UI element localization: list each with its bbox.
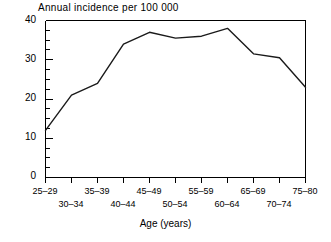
xtick-label-75-80: 75–80 xyxy=(292,186,317,196)
xtick-label-25-29: 25–29 xyxy=(32,186,57,196)
y-major-ticks xyxy=(46,21,53,178)
xtick-label-65-69: 65–69 xyxy=(240,186,265,196)
xtick-label-40-44: 40–44 xyxy=(110,199,135,209)
ytick-label-20: 20 xyxy=(14,92,36,103)
chart-figure: Annual incidence per 100 000 xyxy=(0,0,331,242)
ytick-label-40: 40 xyxy=(14,14,36,25)
xtick-label-70-74: 70–74 xyxy=(266,199,291,209)
xtick-label-45-49: 45–49 xyxy=(136,186,161,196)
ytick-label-0: 0 xyxy=(14,170,36,181)
ytick-label-30: 30 xyxy=(14,53,36,64)
axis-frame xyxy=(46,21,306,178)
xtick-label-55-59: 55–59 xyxy=(188,186,213,196)
xtick-label-35-39: 35–39 xyxy=(84,186,109,196)
x-axis-title: Age (years) xyxy=(0,218,331,229)
incidence-line-series xyxy=(46,28,306,130)
x-ticks xyxy=(46,178,306,184)
xtick-label-60-64: 60–64 xyxy=(214,199,239,209)
xtick-label-30-34: 30–34 xyxy=(58,199,83,209)
ytick-label-10: 10 xyxy=(14,131,36,142)
xtick-label-50-54: 50–54 xyxy=(162,199,187,209)
